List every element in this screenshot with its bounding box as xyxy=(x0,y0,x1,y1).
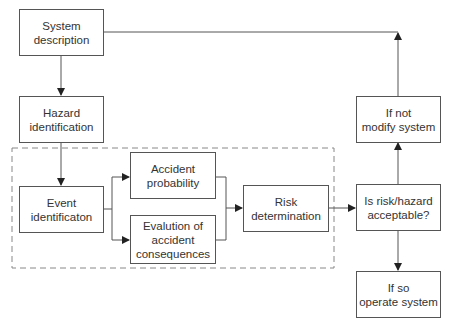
node-accident-probability: Accident probability xyxy=(130,152,216,199)
node-label: Risk determination xyxy=(251,195,321,223)
node-evaluation-consequences: Evalution of accident consequences xyxy=(130,215,216,264)
node-label: If so operate system xyxy=(359,281,438,309)
node-label: Accident probability xyxy=(147,162,199,190)
node-if-not-modify: If not modify system xyxy=(356,96,441,143)
node-risk-determination: Risk determination xyxy=(243,185,329,232)
node-label: If not modify system xyxy=(362,106,436,134)
node-is-acceptable: Is risk/hazard acceptable? xyxy=(356,184,441,231)
node-hazard-identification: Hazard identification xyxy=(19,96,104,143)
node-label: Evalution of accident consequences xyxy=(136,219,210,261)
node-label: Event identificaton xyxy=(31,196,92,224)
node-label: System description xyxy=(34,19,90,47)
node-system-description: System description xyxy=(19,9,104,56)
node-label: Is risk/hazard acceptable? xyxy=(364,194,432,222)
node-event-identification: Event identificaton xyxy=(19,186,104,233)
node-if-so-operate: If so operate system xyxy=(356,271,441,318)
node-label: Hazard identification xyxy=(30,106,94,134)
